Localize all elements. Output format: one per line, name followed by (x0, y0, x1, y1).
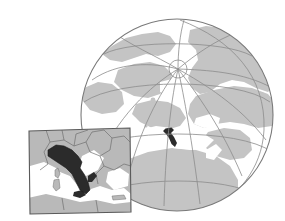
locator-map-figure: Italy Mediterranean Italy (0, 0, 285, 221)
land-island-d (234, 76, 238, 80)
map-canvas (0, 0, 285, 221)
land-island-e (196, 42, 200, 46)
inset-map-group (26, 125, 136, 217)
land-island-a (151, 98, 156, 103)
inset-island-crete (112, 195, 126, 200)
